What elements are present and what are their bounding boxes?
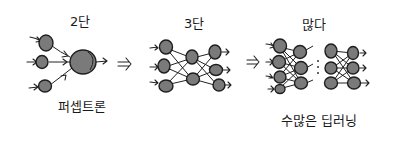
- hidden-node: [187, 73, 200, 85]
- hidden-node: [186, 50, 198, 64]
- input-node: [39, 80, 52, 92]
- output-node: [348, 77, 361, 89]
- transition-arrow-icon: [247, 56, 259, 68]
- input-node: [273, 56, 286, 69]
- input-node: [275, 85, 285, 94]
- output-node: [210, 65, 223, 76]
- output-node: [213, 79, 225, 91]
- input-node: [159, 80, 173, 92]
- hidden-node: [295, 62, 308, 75]
- deep-network: [266, 39, 369, 94]
- output-neuron: [70, 50, 96, 74]
- input-node: [274, 71, 286, 83]
- hidden-node: [325, 62, 337, 74]
- output-node: [348, 47, 359, 60]
- ellipsis-dots-icon: [317, 60, 319, 62]
- input-node: [274, 39, 287, 53]
- input-node: [39, 35, 53, 51]
- output-node: [347, 62, 359, 74]
- hidden-node: [294, 46, 307, 59]
- hidden-node: [325, 44, 337, 58]
- input-node: [160, 40, 173, 54]
- three-layer-network: [150, 40, 231, 92]
- hidden-node: [325, 77, 338, 89]
- hidden-node: [295, 77, 308, 89]
- input-node: [36, 56, 48, 69]
- input-node: [158, 59, 170, 73]
- output-node: [209, 45, 221, 59]
- perceptron-network: [27, 35, 107, 92]
- neural-network-diagram: [0, 0, 393, 145]
- transition-arrow-icon: [118, 58, 131, 70]
